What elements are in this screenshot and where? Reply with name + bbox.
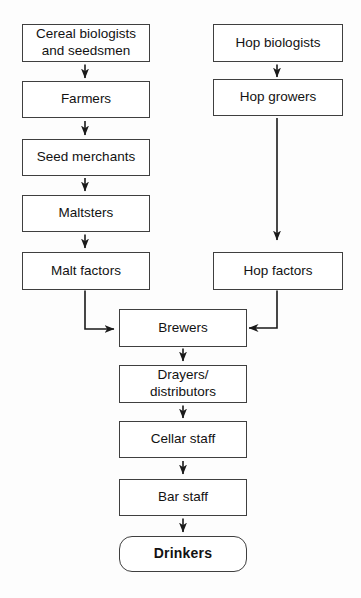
node-hop-growers: Hop growers bbox=[213, 79, 343, 116]
node-brewers: Brewers bbox=[119, 309, 247, 347]
node-maltsters: Maltsters bbox=[22, 195, 150, 232]
node-cereal-biologists-label: Cereal biologists and seedsmen bbox=[36, 26, 136, 60]
node-seed-merchants: Seed merchants bbox=[22, 139, 150, 176]
node-bar-staff: Bar staff bbox=[119, 479, 247, 516]
node-hop-factors-label: Hop factors bbox=[243, 263, 312, 280]
node-cereal-biologists: Cereal biologists and seedsmen bbox=[22, 24, 150, 62]
node-malt-factors-label: Malt factors bbox=[51, 263, 121, 280]
node-hop-growers-label: Hop growers bbox=[240, 89, 317, 106]
node-farmers-label: Farmers bbox=[61, 91, 111, 108]
node-drayers-distributors-label: Drayers/ distributors bbox=[150, 367, 216, 401]
node-malt-factors: Malt factors bbox=[22, 252, 150, 290]
node-cellar-staff-label: Cellar staff bbox=[151, 431, 215, 448]
node-brewers-label: Brewers bbox=[158, 320, 208, 337]
flowchart-canvas: Cereal biologists and seedsmen Farmers S… bbox=[0, 0, 361, 598]
node-hop-biologists-label: Hop biologists bbox=[236, 35, 321, 52]
node-drinkers-label: Drinkers bbox=[154, 545, 212, 563]
node-seed-merchants-label: Seed merchants bbox=[37, 149, 135, 166]
arrow-hopfactors-to-brewers bbox=[249, 291, 277, 329]
node-maltsters-label: Maltsters bbox=[59, 205, 114, 222]
arrow-maltfactors-to-brewers bbox=[85, 291, 114, 330]
node-bar-staff-label: Bar staff bbox=[158, 489, 208, 506]
node-drayers-distributors: Drayers/ distributors bbox=[119, 365, 247, 403]
node-cellar-staff: Cellar staff bbox=[119, 421, 247, 458]
node-farmers: Farmers bbox=[22, 81, 150, 118]
node-drinkers: Drinkers bbox=[119, 536, 247, 572]
node-hop-factors: Hop factors bbox=[213, 252, 343, 290]
node-hop-biologists: Hop biologists bbox=[213, 24, 343, 62]
